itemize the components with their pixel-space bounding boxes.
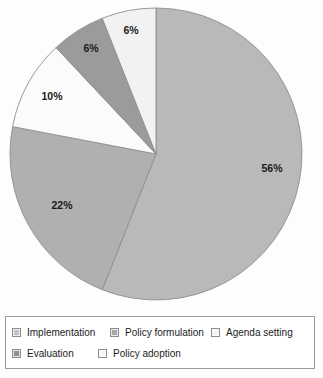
legend-item-evaluation[interactable]: Evaluation bbox=[12, 348, 98, 359]
pie-slice-value-label: 56% bbox=[261, 162, 283, 174]
pie-slice-value-label: 6% bbox=[123, 24, 139, 36]
legend-swatch-icon bbox=[98, 349, 107, 358]
legend-item-label: Policy adoption bbox=[113, 348, 181, 359]
legend-row: Evaluation Policy adoption bbox=[12, 343, 308, 364]
legend-row: Implementation Policy formulation Agenda… bbox=[12, 322, 308, 343]
legend-item-label: Agenda setting bbox=[226, 327, 293, 338]
pie-slice-value-label: 10% bbox=[41, 90, 63, 102]
legend-swatch-icon bbox=[211, 328, 220, 337]
legend-item-implementation[interactable]: Implementation bbox=[12, 327, 110, 338]
legend-item-policy-adoption[interactable]: Policy adoption bbox=[98, 348, 181, 359]
legend-swatch-icon bbox=[12, 349, 21, 358]
legend-item-label: Implementation bbox=[27, 327, 95, 338]
pie-slice-group bbox=[10, 8, 302, 300]
legend-item-policy-formulation[interactable]: Policy formulation bbox=[110, 327, 211, 338]
chart-page: 56%22%10%6%6% Implementation Policy form… bbox=[0, 0, 323, 378]
legend-item-label: Evaluation bbox=[27, 348, 74, 359]
legend-swatch-icon bbox=[110, 328, 119, 337]
pie-slice-value-label: 22% bbox=[51, 199, 73, 211]
legend-item-agenda-setting[interactable]: Agenda setting bbox=[211, 327, 293, 338]
pie-slice-value-label: 6% bbox=[83, 42, 99, 54]
legend-item-label: Policy formulation bbox=[125, 327, 204, 338]
legend-swatch-icon bbox=[12, 328, 21, 337]
pie-chart-svg: 56%22%10%6%6% bbox=[0, 0, 323, 310]
pie-chart: 56%22%10%6%6% bbox=[0, 0, 323, 310]
chart-legend: Implementation Policy formulation Agenda… bbox=[5, 316, 315, 369]
